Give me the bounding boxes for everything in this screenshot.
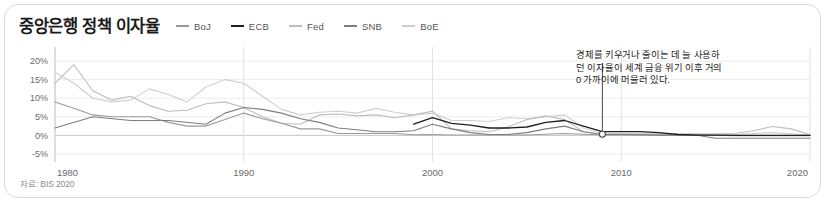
chart-card: 중앙은행 정책 이자율 BoJECBFedSNBBoE 20%15%10%5%0… — [4, 4, 821, 198]
chart-title: 중앙은행 정책 이자율 — [19, 13, 160, 37]
y-axis-tick-label: 20% — [30, 56, 48, 66]
annotation-point-marker — [599, 131, 605, 137]
x-axis-tick-label: 2000 — [422, 167, 443, 178]
legend-swatch-icon — [289, 25, 302, 27]
legend-item-fed[interactable]: Fed — [289, 21, 324, 32]
y-axis-tick-label: -5% — [32, 149, 48, 159]
y-axis-tick-label: 0% — [35, 131, 48, 141]
chart-annotation: 경제를 키우거나 줄이는 데 늘 사용하던 이자율이 세계 금융 위기 이후 거… — [576, 49, 748, 87]
legend-item-ecb[interactable]: ECB — [231, 21, 269, 32]
chart-header: 중앙은행 정책 이자율 BoJECBFedSNBBoE — [5, 5, 820, 45]
legend-label: BoE — [420, 21, 439, 32]
y-axis-tick-label: 10% — [30, 93, 48, 103]
x-axis-tick-label: 2020 — [787, 167, 808, 178]
legend-item-boe[interactable]: BoE — [402, 21, 439, 32]
legend-swatch-icon — [402, 25, 415, 27]
x-axis-tick-label: 2010 — [611, 167, 632, 178]
x-axis-tick-label: 1990 — [233, 167, 254, 178]
source-note: 자료: BIS 2020 — [20, 177, 75, 189]
chart-legend: BoJECBFedSNBBoE — [176, 21, 459, 32]
legend-swatch-icon — [231, 25, 244, 27]
legend-swatch-icon — [176, 25, 189, 27]
legend-item-boj[interactable]: BoJ — [176, 21, 211, 32]
legend-swatch-icon — [344, 25, 357, 27]
annotation-line: 0 가까이에 머물러 있다. — [576, 74, 748, 87]
annotation-line: 경제를 키우거나 줄이는 데 늘 사용하 — [576, 49, 748, 62]
y-axis-tick-label: 5% — [35, 112, 48, 122]
legend-label: Fed — [307, 21, 324, 32]
legend-label: ECB — [249, 21, 269, 32]
annotation-line: 던 이자율이 세계 금융 위기 이후 거의 — [576, 62, 748, 75]
y-axis-tick-label: 15% — [30, 75, 48, 85]
legend-item-snb[interactable]: SNB — [344, 21, 382, 32]
legend-label: BoJ — [194, 21, 211, 32]
legend-label: SNB — [362, 21, 382, 32]
